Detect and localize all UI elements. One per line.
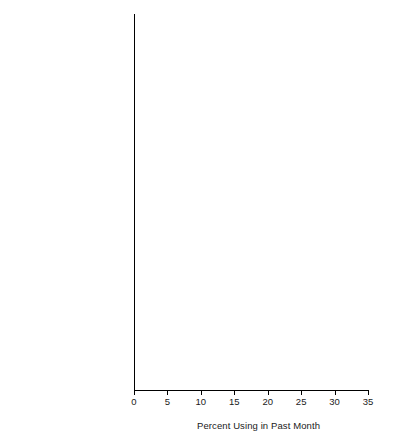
x-tick-label: 15 [219,396,249,407]
x-tick [201,391,202,395]
x-tick [234,391,235,395]
x-tick-label: 30 [320,396,350,407]
x-tick-label: 25 [286,396,316,407]
x-tick [301,391,302,395]
bar-chart: 05101520253035 Percent Using in Past Mon… [0,0,397,445]
x-tick-label: 10 [186,396,216,407]
x-tick-label: 20 [253,396,283,407]
x-tick-label: 5 [152,396,182,407]
x-axis-title: Percent Using in Past Month [0,420,397,431]
y-axis-line [134,14,135,391]
x-tick [167,391,168,395]
x-tick [335,391,336,395]
x-axis-title-text: Percent Using in Past Month [77,420,320,431]
x-tick [134,391,135,395]
x-tick [268,391,269,395]
x-tick [368,391,369,395]
x-tick-label: 35 [353,396,383,407]
x-tick-label: 0 [119,396,149,407]
